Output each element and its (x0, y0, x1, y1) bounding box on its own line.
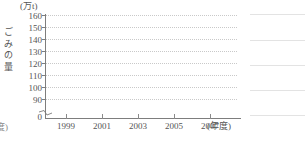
x-tick-label-1999: 1999 (46, 121, 86, 132)
gridline-140 (45, 39, 237, 40)
x-tick-label-2001: 2001 (82, 121, 122, 132)
y-tick-mark-140 (42, 39, 46, 40)
ruled-line-3 (250, 65, 305, 66)
y-tick-label-140: 140 (14, 36, 42, 45)
x-tick-label-2005: 2005 (154, 121, 194, 132)
x-axis-title: (年度) (207, 121, 231, 132)
y-tick-mark-100 (42, 87, 46, 88)
ruled-line-1 (250, 14, 305, 15)
x-tick-mark-2005 (174, 114, 175, 119)
gridline-160 (45, 15, 237, 16)
y-tick-label-120: 120 (14, 60, 42, 69)
clipped-text-fragment: 度) (0, 122, 8, 133)
y-tick-mark-120 (42, 63, 46, 64)
y-tick-mark-90 (42, 99, 46, 100)
y-tick-mark-160 (42, 15, 46, 16)
graph-figure: (万t) ご み の 量 160 150 140 130 120 110 100… (0, 0, 305, 141)
gridline-120 (45, 63, 237, 64)
x-axis-line (45, 118, 241, 119)
x-tick-mark-2001 (102, 114, 103, 119)
axis-break-symbol (39, 104, 52, 113)
plot-area (45, 15, 237, 115)
y-tick-label-110: 110 (14, 72, 42, 81)
ruled-line-4 (250, 90, 305, 91)
y-tick-mark-150 (42, 27, 46, 28)
ruled-line-5 (250, 115, 305, 116)
ruled-answer-lines (250, 0, 305, 141)
x-tick-label-2003: 2003 (118, 121, 158, 132)
gridline-130 (45, 51, 237, 52)
y-tick-label-160: 160 (14, 12, 42, 21)
y-tick-label-130: 130 (14, 48, 42, 57)
gridline-110 (45, 75, 237, 76)
gridline-100 (45, 87, 237, 88)
gridline-150 (45, 27, 237, 28)
y-tick-label-150: 150 (14, 24, 42, 33)
x-tick-mark-1999 (66, 114, 67, 119)
gridline-90 (45, 99, 237, 100)
x-tick-mark-2003 (138, 114, 139, 119)
x-tick-mark-2007 (210, 114, 211, 119)
y-tick-mark-110 (42, 75, 46, 76)
y-tick-label-90: 90 (14, 96, 42, 105)
y-tick-label-100: 100 (14, 84, 42, 93)
y-axis-line (45, 14, 46, 118)
y-tick-mark-130 (42, 51, 46, 52)
ruled-line-2 (250, 40, 305, 41)
